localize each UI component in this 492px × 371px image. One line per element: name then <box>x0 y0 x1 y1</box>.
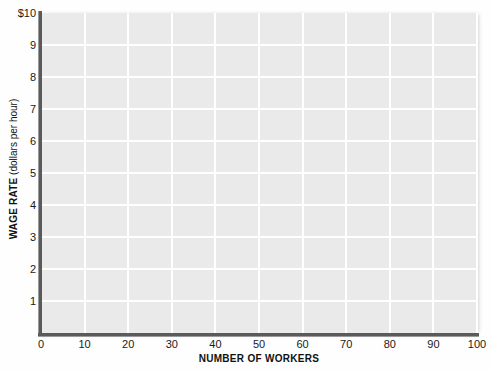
x-tick-label: 80 <box>370 338 410 350</box>
x-tick-label: 90 <box>413 338 453 350</box>
gridline-horizontal <box>41 172 477 174</box>
x-tick-label: 100 <box>457 338 492 350</box>
x-tick-label: 30 <box>152 338 192 350</box>
plot-area <box>41 13 477 333</box>
y-tick-label: $10 <box>0 7 36 19</box>
y-axis-title-regular: (dollars per hour) <box>8 99 19 175</box>
x-tick-label: 70 <box>326 338 366 350</box>
gridline-horizontal <box>41 268 477 270</box>
y-axis-title: WAGE RATE (dollars per hour) <box>8 84 20 254</box>
x-tick-label: 0 <box>21 338 61 350</box>
gridline-horizontal <box>41 108 477 110</box>
y-axis-title-bold: WAGE RATE <box>8 178 19 240</box>
x-axis-line <box>38 333 479 337</box>
x-tick-label: 40 <box>195 338 235 350</box>
x-tick-label: 20 <box>108 338 148 350</box>
y-tick-label: 2 <box>0 263 36 275</box>
gridline-horizontal <box>41 140 477 142</box>
gridline-horizontal <box>41 44 477 46</box>
y-tick-label: 1 <box>0 295 36 307</box>
gridline-horizontal <box>41 300 477 302</box>
gridline-horizontal <box>41 236 477 238</box>
y-axis-title-units <box>8 175 19 178</box>
y-axis-line <box>38 11 42 336</box>
x-tick-label: 10 <box>65 338 105 350</box>
gridline-horizontal <box>41 204 477 206</box>
x-axis-title: NUMBER OF WORKERS <box>0 353 492 365</box>
gridline-horizontal <box>41 76 477 78</box>
x-tick-label: 50 <box>239 338 279 350</box>
y-tick-label: 8 <box>0 71 36 83</box>
x-tick-label: 60 <box>283 338 323 350</box>
y-tick-label: 9 <box>0 39 36 51</box>
wage-rate-chart: 123456789$10 0102030405060708090100 WAGE… <box>0 0 492 371</box>
